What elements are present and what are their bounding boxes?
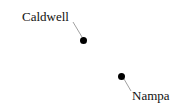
caldwell-city-marker[interactable] [80,37,87,44]
nampa-leader-line [124,79,131,91]
nampa-city-marker[interactable] [118,73,125,80]
caldwell-label: Caldwell [22,10,69,23]
caldwell-leader-line [73,22,82,37]
nampa-label: Nampa [132,89,170,102]
